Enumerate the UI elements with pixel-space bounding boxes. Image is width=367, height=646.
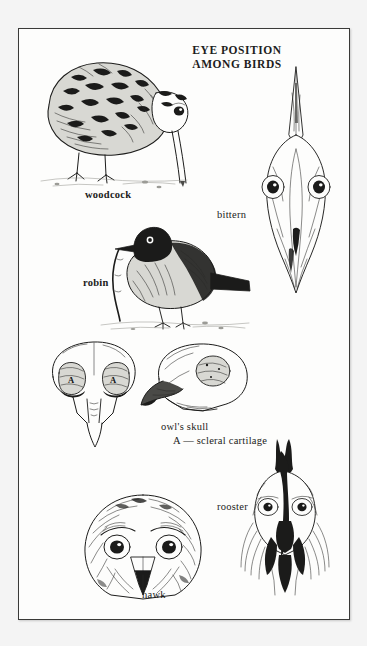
caption-hawk: hawk xyxy=(142,589,166,600)
hawk-right-eye xyxy=(156,535,182,559)
owl-skull-illustration: A A xyxy=(27,339,257,449)
hawk-illustration xyxy=(71,491,216,601)
caption-owl-skull: owl's skull xyxy=(161,421,209,432)
caption-rooster: rooster xyxy=(217,501,248,512)
skull-label-right: A xyxy=(110,375,117,385)
bittern-right-eye xyxy=(308,176,330,199)
skull-label-left: A xyxy=(68,375,75,385)
owl-skull-profile-view xyxy=(141,344,247,411)
scanned-page: EYE POSITION AMONG BIRDS xyxy=(0,0,367,646)
caption-owl-skull-key: A — scleral cartilage xyxy=(173,435,267,446)
woodcock-illustration xyxy=(27,43,202,193)
caption-robin: robin xyxy=(83,277,109,288)
bittern-left-eye xyxy=(262,176,284,199)
rooster-illustration xyxy=(231,437,339,602)
bittern-illustration xyxy=(251,63,341,303)
caption-woodcock: woodcock xyxy=(85,189,131,200)
owl-skull-front-view: A A xyxy=(52,342,135,447)
figure-plate: EYE POSITION AMONG BIRDS xyxy=(18,28,350,620)
hawk-left-eye xyxy=(104,535,130,559)
robin-illustration xyxy=(93,219,253,334)
caption-bittern: bittern xyxy=(217,209,246,220)
